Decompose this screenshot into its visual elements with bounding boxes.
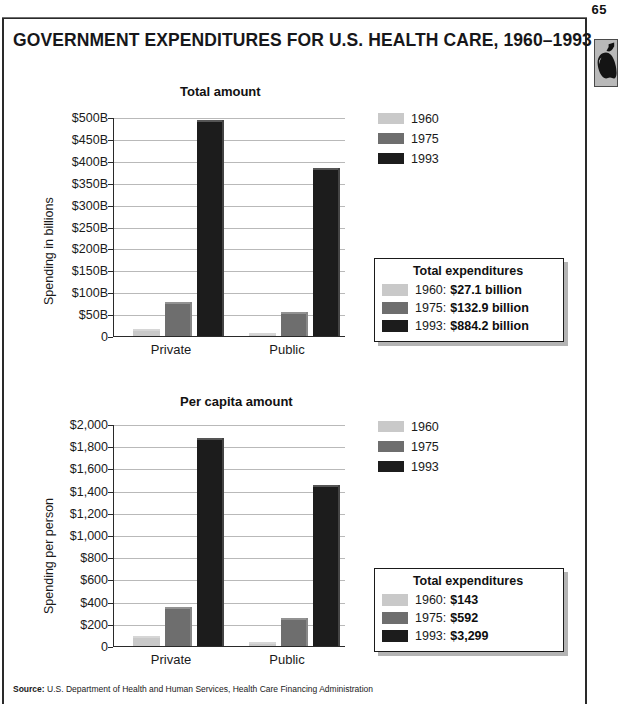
source-note: Source: U.S. Department of Health and Hu… — [13, 684, 373, 694]
x-axis-tick-label: Public — [229, 342, 345, 357]
page-number: 65 — [592, 2, 607, 17]
plot-area — [113, 425, 345, 647]
gridline — [114, 469, 345, 470]
y-axis-tick-mark — [108, 140, 113, 141]
y-axis-tick-label: $450B — [72, 133, 108, 147]
y-axis-tick-mark — [108, 603, 113, 604]
y-axis-tick-mark — [108, 514, 113, 515]
bar-top-highlight — [165, 607, 190, 609]
gridline — [114, 603, 345, 604]
y-axis-tick-label: $400 — [80, 596, 108, 610]
infobox-value: $132.9 billion — [450, 301, 529, 315]
y-axis-tick-label: $1,200 — [70, 507, 108, 521]
infobox-row-1960: 1960:$27.1 billion — [382, 281, 554, 298]
legend-item-1975: 1975 — [378, 438, 439, 455]
gridline — [114, 293, 345, 294]
y-axis-tick-label: $150B — [72, 264, 108, 278]
y-axis-tick-mark — [108, 118, 113, 119]
legend-label: 1975 — [411, 440, 439, 454]
apple-icon — [594, 39, 618, 87]
legend-label: 1960 — [411, 420, 439, 434]
page-top-rule — [2, 17, 587, 18]
y-axis-tick-label: $2,000 — [70, 418, 108, 432]
legend-swatch — [378, 133, 404, 144]
infobox-row-1993: 1993:$3,299 — [382, 627, 554, 644]
legend-item-1993: 1993 — [378, 458, 439, 475]
legend-item-1993: 1993 — [378, 150, 439, 167]
page-title: GOVERNMENT EXPENDITURES FOR U.S. HEALTH … — [13, 30, 592, 51]
source-text: U.S. Department of Health and Human Serv… — [47, 684, 373, 694]
total-expenditures-box: Total expenditures1960:$1431975:$5921993… — [374, 568, 564, 652]
legend-item-1960: 1960 — [378, 418, 439, 435]
plot-area — [113, 118, 345, 337]
y-axis-tick-label: $400B — [72, 155, 108, 169]
y-axis-tick-label: $200B — [72, 242, 108, 256]
bar-public-1993 — [313, 485, 340, 647]
chart-per-capita-amount: Per capita amountSpending per person0$20… — [0, 0, 619, 704]
legend-label: 1975 — [411, 132, 439, 146]
page-root: 65 GOVERNMENT EXPENDITURES FOR U.S. HEAL… — [0, 0, 619, 704]
y-axis-tick-mark — [108, 647, 113, 648]
infobox-swatch — [382, 594, 408, 606]
infobox-year: 1993: — [415, 629, 446, 643]
y-axis-tick-mark — [108, 580, 113, 581]
legend-swatch — [378, 461, 404, 472]
chart-title: Total amount — [180, 84, 261, 99]
infobox-year: 1975: — [415, 301, 446, 315]
infobox-value: $592 — [450, 611, 478, 625]
x-axis-tick-label: Public — [229, 652, 345, 667]
bar-top-highlight — [133, 329, 160, 331]
infobox-row-1960: 1960:$143 — [382, 591, 554, 608]
legend-swatch — [378, 153, 404, 164]
infobox-year: 1993: — [415, 319, 446, 333]
source-label: Source: — [13, 684, 45, 694]
y-axis-tick-mark — [108, 162, 113, 163]
y-axis-tick-mark — [108, 447, 113, 448]
y-axis-tick-label: $1,800 — [70, 440, 108, 454]
y-axis-tick-label: 0 — [101, 640, 108, 654]
y-axis-label: Spending per person — [42, 498, 56, 614]
bar-private-1975 — [165, 302, 192, 336]
x-axis-tick-label: Private — [113, 652, 229, 667]
infobox-value: $3,299 — [450, 629, 488, 643]
y-axis-tick-label: $250B — [72, 221, 108, 235]
gridline — [114, 118, 345, 119]
bar-top-highlight — [197, 438, 222, 440]
legend-item-1975: 1975 — [378, 130, 439, 147]
infobox-row-1993: 1993:$884.2 billion — [382, 317, 554, 334]
bar-private-1960 — [133, 636, 160, 646]
gridline — [114, 558, 345, 559]
infobox-year: 1960: — [415, 283, 446, 297]
gridline — [114, 492, 345, 493]
infobox-swatch — [382, 302, 408, 314]
gridline — [114, 315, 345, 316]
y-axis-tick-mark — [108, 228, 113, 229]
gridline — [114, 514, 345, 515]
infobox-value: $884.2 billion — [450, 319, 529, 333]
bar-public-1975 — [281, 618, 308, 646]
infobox-value: $143 — [450, 593, 478, 607]
bar-top-highlight — [133, 636, 160, 638]
bar-private-1993 — [197, 120, 224, 336]
x-axis-tick-label: Private — [113, 342, 229, 357]
bar-private-1960 — [133, 329, 160, 336]
gridline — [114, 536, 345, 537]
y-axis-tick-label: $800 — [80, 551, 108, 565]
gridline — [114, 140, 345, 141]
legend-swatch — [378, 421, 404, 432]
chart-total-amount: Total amountSpending in billions0$50B$10… — [0, 0, 619, 704]
y-axis-label: Spending in billions — [42, 197, 56, 305]
chart-title: Per capita amount — [180, 394, 293, 409]
legend-label: 1960 — [411, 112, 439, 126]
bar-top-highlight — [249, 642, 276, 644]
bar-top-highlight — [313, 485, 338, 487]
y-axis-tick-mark — [108, 206, 113, 207]
gridline — [114, 206, 345, 207]
bar-top-highlight — [313, 168, 338, 170]
infobox-year: 1960: — [415, 593, 446, 607]
y-axis-tick-label: $1,400 — [70, 485, 108, 499]
gridline — [114, 425, 345, 426]
bar-top-highlight — [165, 302, 190, 304]
infobox-swatch — [382, 630, 408, 642]
y-axis-tick-label: $300B — [72, 199, 108, 213]
